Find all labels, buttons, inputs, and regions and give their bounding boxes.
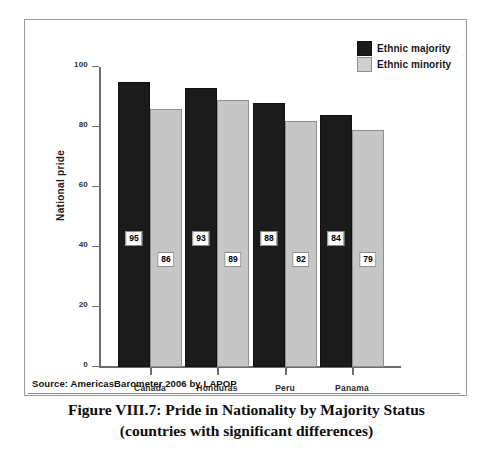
bar-honduras-majority[interactable]: 93: [185, 88, 217, 367]
bar-panama-minority[interactable]: 79: [352, 130, 384, 367]
figure-frame: National pride Ethnic majority Ethnic mi…: [24, 19, 467, 396]
bar-value-canada-majority: 95: [125, 231, 142, 247]
y-tick-20: 20: [92, 306, 99, 307]
x-tick-canada: [150, 368, 152, 375]
figure-caption-line2: (countries with significant differences): [0, 421, 493, 442]
y-tick-label-80: 80: [79, 120, 88, 129]
bar-value-peru-minority: 82: [292, 252, 309, 268]
bar-value-panama-minority: 79: [359, 252, 376, 268]
x-tick-label-peru: Peru: [275, 383, 295, 393]
y-tick-label-60: 60: [79, 180, 88, 189]
y-axis-title: National pride: [55, 150, 66, 221]
bar-peru-majority[interactable]: 88: [253, 103, 285, 367]
bar-value-honduras-minority: 89: [224, 252, 241, 268]
bar-value-honduras-majority: 93: [192, 231, 209, 247]
plot-area: 100 80 60 40 20 0 95 86 93 89 88: [99, 50, 417, 368]
y-tick-60: 60: [92, 186, 99, 187]
bar-canada-minority[interactable]: 86: [150, 109, 182, 367]
y-tick-label-40: 40: [79, 240, 88, 249]
bar-peru-minority[interactable]: 82: [285, 121, 317, 367]
figure-caption: Figure VIII.7: Pride in Nationality by M…: [0, 400, 493, 442]
y-tick-label-0: 0: [83, 360, 88, 369]
y-tick-80: 80: [92, 126, 99, 127]
y-tick-0: 0: [92, 366, 99, 367]
x-tick-honduras: [217, 368, 219, 375]
figure-caption-line1: Figure VIII.7: Pride in Nationality by M…: [0, 400, 493, 421]
x-tick-panama: [352, 368, 354, 375]
bar-panama-majority[interactable]: 84: [320, 115, 352, 367]
bar-value-panama-majority: 84: [327, 231, 344, 247]
y-tick-100: 100: [92, 66, 99, 67]
y-tick-label-20: 20: [79, 300, 88, 309]
bar-honduras-minority[interactable]: 89: [217, 100, 249, 367]
bar-value-canada-minority: 86: [157, 252, 174, 268]
y-axis-line: [99, 67, 101, 368]
y-tick-label-100: 100: [74, 60, 88, 69]
source-underline: [28, 393, 460, 394]
bar-value-peru-majority: 88: [260, 231, 277, 247]
source-note: Source: AmericasBarometer 2006 by LAPOP: [32, 378, 237, 389]
x-tick-label-panama: Panama: [335, 383, 369, 393]
bar-canada-majority[interactable]: 95: [118, 82, 150, 367]
x-tick-peru: [285, 368, 287, 375]
y-tick-40: 40: [92, 246, 99, 247]
